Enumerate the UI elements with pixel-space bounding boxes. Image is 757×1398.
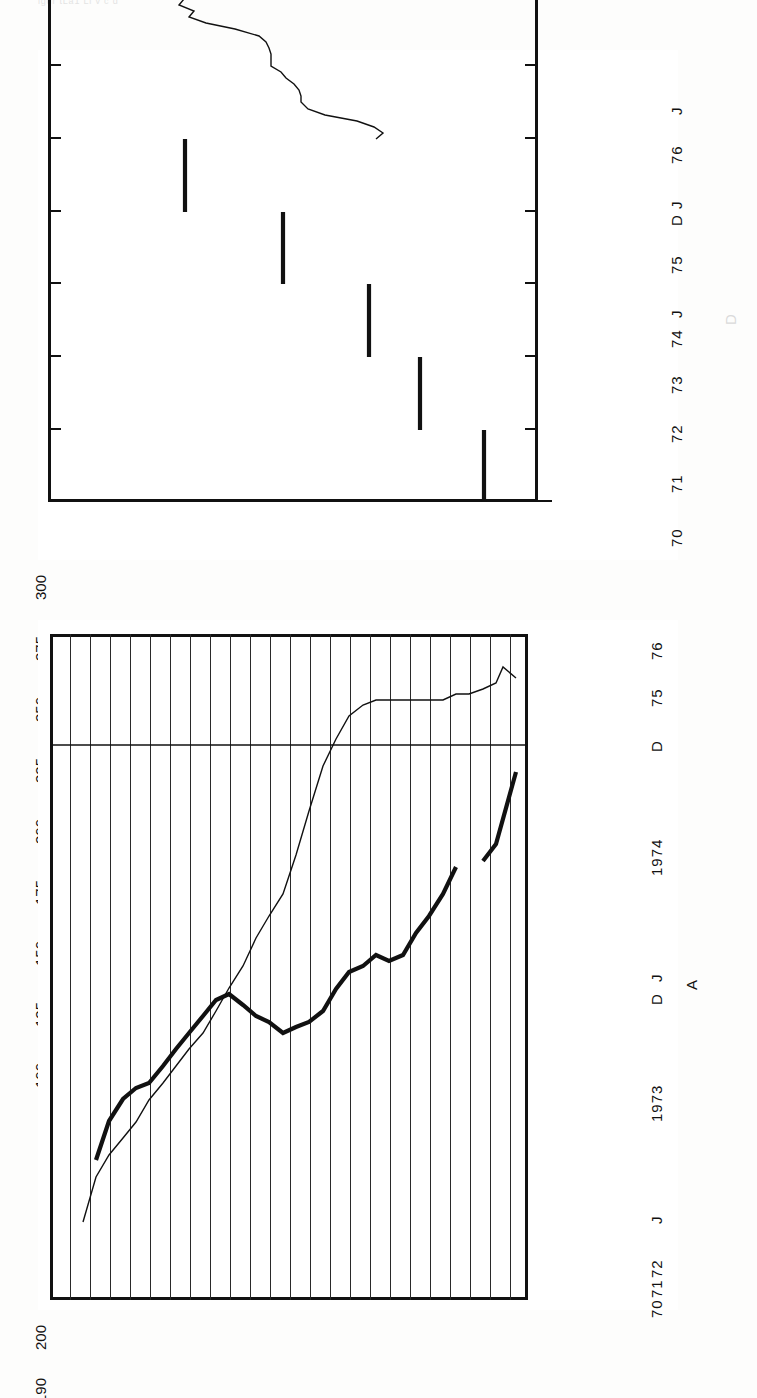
upper-xtick-J2: J: [668, 107, 685, 116]
lower-series-thin: [83, 667, 516, 1222]
upper-xtick-74: 74: [668, 329, 685, 348]
upper-extra-label-D: D: [722, 314, 739, 325]
lower-ytick-200: 200: [32, 1325, 49, 1350]
upper-annual-segments: [185, 139, 484, 502]
upper-monthly-line: [73, 0, 383, 139]
lower-xtick-J2: J: [648, 974, 665, 983]
lower-chart-svg: [38, 620, 538, 1310]
upper-xtick-75: 75: [668, 255, 685, 274]
lower-xtick-D: D: [648, 993, 665, 1005]
scan-page: igur tLa1 Ll v c d: [0, 0, 757, 1398]
lower-xtick-1974: 1974: [648, 839, 665, 876]
upper-chart-body: [38, 50, 678, 560]
lower-xtick-D2: D: [648, 740, 665, 752]
lower-xtick-J: J: [648, 1216, 665, 1225]
lower-extra-label-A: A: [683, 980, 700, 990]
lower-xtick-71: 71: [648, 1279, 665, 1298]
upper-xtick-J1: J: [668, 310, 685, 319]
upper-xtick-72: 72: [668, 424, 685, 443]
lower-series-thick: [96, 772, 516, 1160]
upper-xtick-70: 70: [668, 528, 685, 547]
lower-xtick-75: 75: [648, 688, 665, 707]
upper-chart: [38, 50, 678, 560]
upper-xtick-73: 73: [668, 375, 685, 394]
lower-xtick-7071: 70: [648, 1299, 665, 1318]
lower-chart: [38, 620, 678, 1310]
upper-ytick-300: 300: [32, 575, 49, 600]
lower-ytick-190: 190: [32, 1378, 49, 1398]
lower-xtick-76: 76: [648, 641, 665, 660]
upper-xtick-71: 71: [668, 474, 685, 493]
upper-chart-svg: [38, 0, 548, 560]
lower-xtick-1973: 1973: [648, 1085, 665, 1122]
lower-xtick-72: 72: [648, 1259, 665, 1278]
lower-chart-body: [38, 620, 678, 1310]
upper-xtick-76: 76: [668, 145, 685, 164]
upper-xtick-DJ: D J: [668, 201, 685, 227]
